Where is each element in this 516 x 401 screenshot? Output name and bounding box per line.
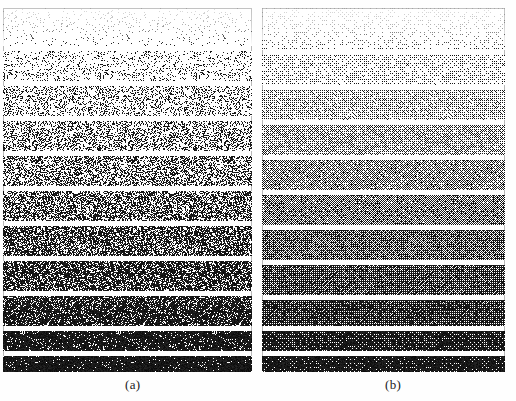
gray-band-b-2 <box>262 55 505 85</box>
gray-band-a-2 <box>3 51 252 81</box>
gray-band-b-1 <box>262 8 505 50</box>
gray-band-b-10 <box>262 331 505 351</box>
gray-band-b-3 <box>262 90 505 120</box>
gray-band-a-9 <box>3 296 252 326</box>
panel-b <box>262 8 505 372</box>
gray-band-a-8 <box>3 261 252 291</box>
panel-a <box>3 8 252 372</box>
gray-band-a-6 <box>3 191 252 221</box>
gray-band-a-10 <box>3 331 252 351</box>
gray-band-a-4 <box>3 121 252 151</box>
gray-band-a-3 <box>3 86 252 116</box>
gray-band-b-9 <box>262 300 505 326</box>
caption-a: (a) <box>125 377 140 393</box>
gray-band-b-11 <box>262 356 505 372</box>
caption-b: (b) <box>385 377 401 393</box>
gray-band-b-6 <box>262 195 505 225</box>
gray-band-a-5 <box>3 156 252 186</box>
figure-root: (a) (b) <box>0 0 516 401</box>
gray-band-a-1 <box>3 8 252 46</box>
gray-band-b-4 <box>262 125 505 155</box>
gray-band-a-7 <box>3 226 252 256</box>
gray-band-b-7 <box>262 230 505 260</box>
gray-band-b-5 <box>262 160 505 190</box>
gray-band-b-8 <box>262 265 505 295</box>
gray-band-a-11 <box>3 356 252 372</box>
